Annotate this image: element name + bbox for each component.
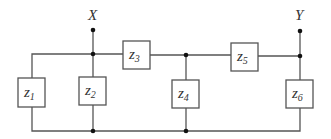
junction-z2-bottom-dot	[91, 129, 96, 134]
junction-z4-bottom-dot	[184, 129, 189, 134]
component-z2: z2	[79, 77, 106, 105]
wires	[32, 30, 300, 131]
component-z1: z1	[18, 78, 45, 107]
junction-z4-top-dot	[184, 53, 189, 58]
component-z3: z3	[123, 41, 150, 69]
terminal-y-dot	[298, 29, 303, 34]
wire-z1-top	[32, 54, 123, 78]
component-z4: z4	[172, 80, 199, 108]
terminal-x-dot	[91, 28, 96, 33]
circuit-diagram: z1 z2 z3 z4 z5 z6 X Y	[0, 0, 331, 139]
junction-x-dot	[91, 52, 96, 57]
component-z5: z5	[231, 43, 258, 71]
component-z6: z6	[286, 80, 313, 108]
junction-y-dot	[298, 54, 303, 59]
node-label-y: Y	[295, 7, 305, 23]
node-label-x: X	[87, 7, 98, 23]
wire-z1-bottom	[32, 107, 300, 131]
